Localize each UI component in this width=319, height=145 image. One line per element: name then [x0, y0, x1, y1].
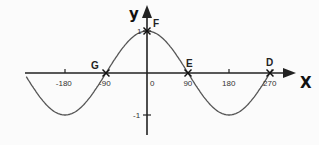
y-axis-arrow-icon — [142, 5, 152, 18]
point-label: D — [266, 57, 273, 68]
y-axis-name: y — [129, 5, 139, 23]
marked-points: FGED — [91, 18, 274, 77]
x-tick-label: 90 — [183, 79, 192, 88]
point-label: G — [91, 60, 99, 71]
x-axis-arrow-icon — [283, 68, 296, 78]
point-label: E — [186, 58, 193, 69]
y-tick-label: 1 — [137, 27, 142, 36]
x-tick-label: -180 — [56, 79, 73, 88]
point-g: G — [91, 60, 110, 77]
x-axis-name: X — [300, 74, 312, 92]
point-label: F — [153, 18, 159, 29]
y-tick-label: -1 — [133, 111, 141, 120]
x-tick-label: 270 — [263, 79, 277, 88]
cosine-graph: X y -180-900901802701-1 FGED — [0, 0, 319, 145]
x-tick-label: -90 — [99, 79, 111, 88]
x-tick-label: 0 — [150, 79, 155, 88]
x-tick-label: 180 — [222, 79, 236, 88]
